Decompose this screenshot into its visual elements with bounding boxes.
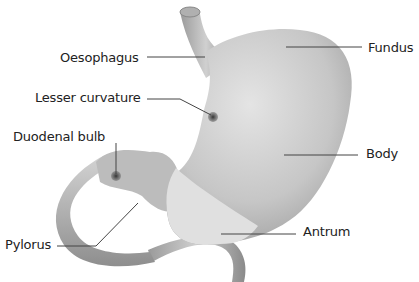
label-fundus: Fundus (368, 41, 413, 54)
label-lesser-curvature: Lesser curvature (35, 91, 141, 104)
label-pylorus: Pylorus (5, 238, 51, 251)
label-oesophagus: Oesophagus (60, 51, 139, 64)
duodenal-bulb (96, 150, 178, 212)
label-antrum: Antrum (303, 225, 350, 238)
label-body: Body (366, 147, 398, 160)
label-duodenal-bulb: Duodenal bulb (13, 130, 105, 143)
oesophagus-opening (180, 7, 200, 17)
lesser-curvature-dot (208, 112, 218, 122)
